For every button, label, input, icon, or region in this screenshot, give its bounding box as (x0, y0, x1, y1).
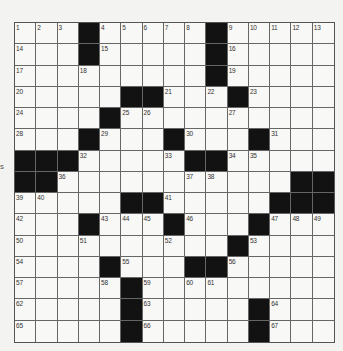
grid-cell-r5-c5[interactable] (121, 129, 142, 150)
grid-cell-r10-c0[interactable]: 50 (15, 236, 36, 257)
grid-cell-r13-c2[interactable] (58, 299, 79, 320)
grid-cell-r0-c14[interactable]: 13 (313, 23, 334, 44)
grid-cell-r4-c0[interactable]: 24 (15, 108, 36, 129)
grid-cell-r12-c2[interactable] (58, 278, 79, 299)
grid-cell-r13-c9[interactable] (206, 299, 227, 320)
grid-cell-r11-c5[interactable]: 55 (121, 257, 142, 278)
grid-cell-r2-c10[interactable]: 19 (228, 66, 249, 87)
grid-cell-r14-c2[interactable] (58, 321, 79, 342)
grid-cell-r2-c1[interactable] (36, 66, 57, 87)
grid-cell-r12-c4[interactable]: 58 (100, 278, 121, 299)
grid-cell-r11-c13[interactable] (291, 257, 312, 278)
grid-cell-r10-c8[interactable] (185, 236, 206, 257)
grid-cell-r7-c11[interactable] (249, 172, 270, 193)
grid-cell-r1-c12[interactable] (270, 44, 291, 65)
grid-cell-r1-c0[interactable]: 14 (15, 44, 36, 65)
grid-cell-r12-c1[interactable] (36, 278, 57, 299)
grid-cell-r10-c3[interactable]: 51 (79, 236, 100, 257)
grid-cell-r11-c11[interactable] (249, 257, 270, 278)
grid-cell-r13-c6[interactable]: 63 (143, 299, 164, 320)
grid-cell-r5-c1[interactable] (36, 129, 57, 150)
grid-cell-r6-c12[interactable] (270, 151, 291, 172)
grid-cell-r3-c8[interactable] (185, 87, 206, 108)
grid-cell-r4-c1[interactable] (36, 108, 57, 129)
grid-cell-r2-c4[interactable] (100, 66, 121, 87)
grid-cell-r2-c8[interactable] (185, 66, 206, 87)
grid-cell-r7-c9[interactable]: 38 (206, 172, 227, 193)
grid-cell-r6-c7[interactable]: 33 (164, 151, 185, 172)
grid-cell-r0-c2[interactable]: 3 (58, 23, 79, 44)
grid-cell-r11-c14[interactable] (313, 257, 334, 278)
grid-cell-r6-c6[interactable] (143, 151, 164, 172)
grid-cell-r10-c14[interactable] (313, 236, 334, 257)
grid-cell-r0-c4[interactable]: 4 (100, 23, 121, 44)
grid-cell-r13-c0[interactable]: 62 (15, 299, 36, 320)
grid-cell-r14-c8[interactable] (185, 321, 206, 342)
grid-cell-r8-c3[interactable] (79, 193, 100, 214)
grid-cell-r7-c7[interactable] (164, 172, 185, 193)
grid-cell-r1-c10[interactable]: 16 (228, 44, 249, 65)
grid-cell-r9-c10[interactable] (228, 214, 249, 235)
grid-cell-r14-c6[interactable]: 66 (143, 321, 164, 342)
grid-cell-r3-c3[interactable] (79, 87, 100, 108)
grid-cell-r13-c1[interactable] (36, 299, 57, 320)
grid-cell-r7-c5[interactable] (121, 172, 142, 193)
grid-cell-r9-c9[interactable] (206, 214, 227, 235)
grid-cell-r14-c4[interactable] (100, 321, 121, 342)
grid-cell-r8-c10[interactable] (228, 193, 249, 214)
grid-cell-r14-c9[interactable] (206, 321, 227, 342)
grid-cell-r11-c0[interactable]: 54 (15, 257, 36, 278)
grid-cell-r3-c14[interactable] (313, 87, 334, 108)
grid-cell-r12-c12[interactable] (270, 278, 291, 299)
grid-cell-r1-c7[interactable] (164, 44, 185, 65)
grid-cell-r11-c10[interactable]: 56 (228, 257, 249, 278)
grid-cell-r7-c10[interactable] (228, 172, 249, 193)
grid-cell-r2-c3[interactable]: 18 (79, 66, 100, 87)
grid-cell-r0-c0[interactable]: 1 (15, 23, 36, 44)
grid-cell-r8-c9[interactable] (206, 193, 227, 214)
grid-cell-r8-c0[interactable]: 39 (15, 193, 36, 214)
grid-cell-r2-c14[interactable] (313, 66, 334, 87)
grid-cell-r4-c13[interactable] (291, 108, 312, 129)
grid-cell-r13-c13[interactable] (291, 299, 312, 320)
grid-cell-r12-c7[interactable] (164, 278, 185, 299)
grid-cell-r2-c11[interactable] (249, 66, 270, 87)
grid-cell-r0-c11[interactable]: 10 (249, 23, 270, 44)
grid-cell-r3-c0[interactable]: 20 (15, 87, 36, 108)
grid-cell-r14-c0[interactable]: 65 (15, 321, 36, 342)
grid-cell-r4-c5[interactable]: 25 (121, 108, 142, 129)
grid-cell-r13-c14[interactable] (313, 299, 334, 320)
grid-cell-r5-c10[interactable] (228, 129, 249, 150)
grid-cell-r7-c6[interactable] (143, 172, 164, 193)
grid-cell-r2-c7[interactable] (164, 66, 185, 87)
grid-cell-r12-c3[interactable] (79, 278, 100, 299)
grid-cell-r9-c8[interactable]: 46 (185, 214, 206, 235)
grid-cell-r14-c3[interactable] (79, 321, 100, 342)
grid-cell-r10-c13[interactable] (291, 236, 312, 257)
grid-cell-r10-c4[interactable] (100, 236, 121, 257)
grid-cell-r14-c1[interactable] (36, 321, 57, 342)
grid-cell-r8-c7[interactable]: 41 (164, 193, 185, 214)
grid-cell-r5-c2[interactable] (58, 129, 79, 150)
grid-cell-r7-c8[interactable]: 37 (185, 172, 206, 193)
grid-cell-r13-c10[interactable] (228, 299, 249, 320)
grid-cell-r14-c12[interactable]: 67 (270, 321, 291, 342)
grid-cell-r9-c1[interactable] (36, 214, 57, 235)
grid-cell-r4-c2[interactable] (58, 108, 79, 129)
grid-cell-r1-c4[interactable]: 15 (100, 44, 121, 65)
grid-cell-r7-c4[interactable] (100, 172, 121, 193)
grid-cell-r4-c8[interactable] (185, 108, 206, 129)
grid-cell-r5-c0[interactable]: 28 (15, 129, 36, 150)
grid-cell-r1-c13[interactable] (291, 44, 312, 65)
grid-cell-r9-c2[interactable] (58, 214, 79, 235)
grid-cell-r4-c14[interactable] (313, 108, 334, 129)
grid-cell-r6-c10[interactable]: 34 (228, 151, 249, 172)
grid-cell-r1-c2[interactable] (58, 44, 79, 65)
grid-cell-r0-c6[interactable]: 6 (143, 23, 164, 44)
grid-cell-r0-c8[interactable]: 8 (185, 23, 206, 44)
grid-cell-r4-c3[interactable] (79, 108, 100, 129)
grid-cell-r4-c9[interactable] (206, 108, 227, 129)
grid-cell-r0-c12[interactable]: 11 (270, 23, 291, 44)
grid-cell-r9-c0[interactable]: 42 (15, 214, 36, 235)
grid-cell-r8-c11[interactable] (249, 193, 270, 214)
